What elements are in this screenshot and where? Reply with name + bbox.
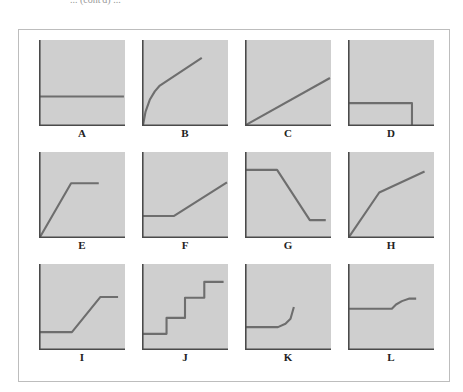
panel-f: F	[142, 152, 228, 256]
panel-label: K	[245, 351, 331, 363]
panel-label: D	[348, 127, 434, 139]
panel-label: C	[245, 127, 331, 139]
panel-b: B	[142, 40, 228, 144]
panel-plot	[245, 40, 331, 126]
panel-plot	[39, 264, 125, 350]
panel-label: A	[39, 127, 125, 139]
panel-label: G	[245, 239, 331, 251]
panel-e: E	[39, 152, 125, 256]
panel-background	[245, 152, 331, 238]
panel-d: D	[348, 40, 434, 144]
panel-plot	[348, 152, 434, 238]
panel-label: J	[142, 351, 228, 363]
panel-background	[245, 264, 331, 350]
panel-plot	[348, 264, 434, 350]
panel-plot	[142, 40, 228, 126]
panel-i: I	[39, 264, 125, 368]
panel-background	[348, 40, 434, 126]
panel-label: L	[348, 351, 434, 363]
panel-c: C	[245, 40, 331, 144]
panel-background	[39, 264, 125, 350]
panel-h: H	[348, 152, 434, 256]
panel-plot	[245, 152, 331, 238]
panel-g: G	[245, 152, 331, 256]
panel-label: B	[142, 127, 228, 139]
panel-background	[142, 152, 228, 238]
panel-plot	[142, 152, 228, 238]
panel-background	[39, 152, 125, 238]
panel-j: J	[142, 264, 228, 368]
panel-background	[245, 40, 331, 126]
panel-plot	[348, 40, 434, 126]
panel-label: H	[348, 239, 434, 251]
panel-k: K	[245, 264, 331, 368]
panel-background	[39, 40, 125, 126]
panel-background	[348, 152, 434, 238]
panel-label: F	[142, 239, 228, 251]
panel-plot	[245, 264, 331, 350]
panel-plot	[39, 152, 125, 238]
panel-l: L	[348, 264, 434, 368]
caption-fragment: ... (cont'd) ...	[70, 0, 121, 5]
panel-background	[348, 264, 434, 350]
panel-background	[142, 40, 228, 126]
panel-a: A	[39, 40, 125, 144]
panel-label: I	[39, 351, 125, 363]
panel-label: E	[39, 239, 125, 251]
panel-plot	[39, 40, 125, 126]
panel-plot	[142, 264, 228, 350]
